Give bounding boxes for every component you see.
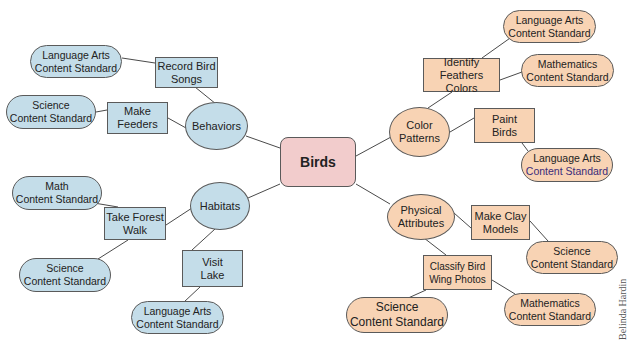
activity-line: Wing Photos (429, 273, 486, 286)
standard-science: Science Content Standard (19, 258, 111, 292)
topic-habitats: Habitats (190, 182, 250, 230)
topic-label: Attributes (398, 217, 444, 230)
activity-line: Birds (492, 126, 517, 139)
topic-color-patterns: Color Patterns (389, 107, 450, 157)
standard-language-arts: Language Arts Content Standard (30, 45, 122, 78)
activity-visit-lake: Visit Lake (182, 250, 243, 287)
standard-science: Science Content Standard (346, 297, 448, 333)
activity-classify-bird-wing-photos: Classify Bird Wing Photos (423, 255, 492, 290)
standard-type: Content Standard (16, 193, 98, 206)
standard-language-arts: Language Arts Content Standard (131, 301, 224, 334)
standard-subject: Science (32, 99, 69, 112)
standard-subject: Science (553, 245, 590, 258)
standard-type: Content Standard (509, 310, 591, 323)
standard-subject: Language Arts (42, 49, 110, 62)
standard-mathematics: Mathematics Content Standard (504, 293, 596, 326)
standard-type: Content Standard (136, 318, 218, 331)
photo-credit: Belinda Hardin (617, 270, 631, 340)
concept-map: Birds Behaviors Record Bird Songs Langua… (0, 0, 634, 340)
standard-subject: Language Arts (516, 14, 584, 27)
standard-subject: Mathematics (538, 58, 598, 71)
center-node-birds: Birds (280, 137, 356, 187)
activity-line: Lake (201, 269, 225, 282)
standard-subject: Science (46, 262, 83, 275)
standard-subject: Mathematics (520, 297, 580, 310)
center-label: Birds (300, 156, 336, 169)
activity-line: Walk (123, 224, 147, 237)
activity-make-clay-models: Make Clay Models (471, 205, 530, 240)
activity-line: Classify Bird (430, 260, 486, 273)
activity-line: Visit (202, 256, 223, 269)
standard-science: Science Content Standard (6, 95, 96, 129)
topic-label: Behaviors (192, 120, 241, 133)
standard-subject: Science (376, 300, 419, 315)
standard-type: Content Standard (508, 27, 590, 40)
activity-identify-feathers-colors: Identify Feathers Colors (423, 58, 500, 92)
activity-line: Make Clay (475, 210, 527, 223)
activity-line: Feeders (117, 118, 157, 131)
topic-label: Habitats (200, 200, 240, 213)
topic-label: Patterns (399, 132, 440, 145)
activity-line: Make (124, 105, 151, 118)
topic-label: Color (406, 119, 432, 132)
activity-line: Songs (171, 73, 202, 86)
standard-subject: Language Arts (533, 152, 601, 165)
activity-line: Identify (444, 56, 479, 69)
activity-line: Take Forest (106, 211, 163, 224)
topic-physical-attributes: Physical Attributes (387, 194, 455, 240)
standard-type: Content Standard (350, 315, 444, 330)
standard-subject: Math (45, 180, 68, 193)
standard-type: Content Standard (10, 112, 92, 125)
activity-line: Record Bird (157, 60, 215, 73)
activity-line: Paint (492, 113, 517, 126)
activity-take-forest-walk: Take Forest Walk (104, 207, 166, 240)
standard-language-arts: Language Arts Content Standard (521, 148, 613, 182)
standard-type: Content Standard (531, 258, 613, 271)
activity-line: Models (483, 223, 518, 236)
standard-mathematics: Mathematics Content Standard (521, 54, 614, 87)
standard-subject: Language Arts (144, 305, 212, 318)
activity-make-feeders: Make Feeders (107, 102, 168, 134)
activity-record-bird-songs: Record Bird Songs (155, 57, 218, 88)
topic-label: Physical (401, 204, 442, 217)
standard-type: Content Standard (24, 275, 106, 288)
topic-behaviors: Behaviors (185, 102, 248, 150)
standard-type: Content Standard (35, 62, 117, 75)
standard-language-arts: Language Arts Content Standard (503, 10, 596, 43)
activity-paint-birds: Paint Birds (474, 108, 535, 143)
activity-line: Feathers Colors (424, 69, 499, 95)
standard-type: Content Standard (526, 165, 608, 178)
standard-type: Content Standard (526, 71, 608, 84)
standard-math: Math Content Standard (12, 176, 102, 210)
standard-science: Science Content Standard (526, 241, 618, 274)
